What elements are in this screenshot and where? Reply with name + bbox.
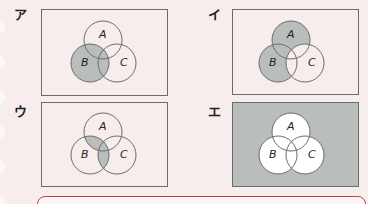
option-label-e: エ [208,101,221,120]
binder-hole [0,55,5,69]
option-label-u: ウ [14,101,27,120]
option-label-a: ア [14,4,27,23]
circle-label-b: B [81,56,89,69]
circle-label-c: C [308,148,316,161]
option-label-i: イ [208,4,221,23]
binder-hole [0,20,5,34]
binder-hole [0,90,5,104]
circle-label-c: C [120,148,128,161]
venn-panel-i: A B C [232,9,359,95]
circle-label-c: C [120,56,128,69]
circle-label-b: B [81,148,89,161]
binder-hole [0,125,5,139]
binder-hole [0,160,5,174]
circle-label-c: C [308,56,316,69]
venn-panel-u: A B C [41,102,168,187]
circle-label-b: B [269,56,277,69]
circle-label-a: A [99,120,107,133]
circle-label-a: A [287,120,295,133]
circle-label-a: A [99,28,107,41]
binder-hole [0,195,5,204]
circle-label-b: B [269,148,277,161]
venn-panel-a: A B C [41,9,168,96]
venn-panel-e: A B C [232,102,359,187]
answer-box [37,196,366,204]
circle-label-a: A [287,28,295,41]
